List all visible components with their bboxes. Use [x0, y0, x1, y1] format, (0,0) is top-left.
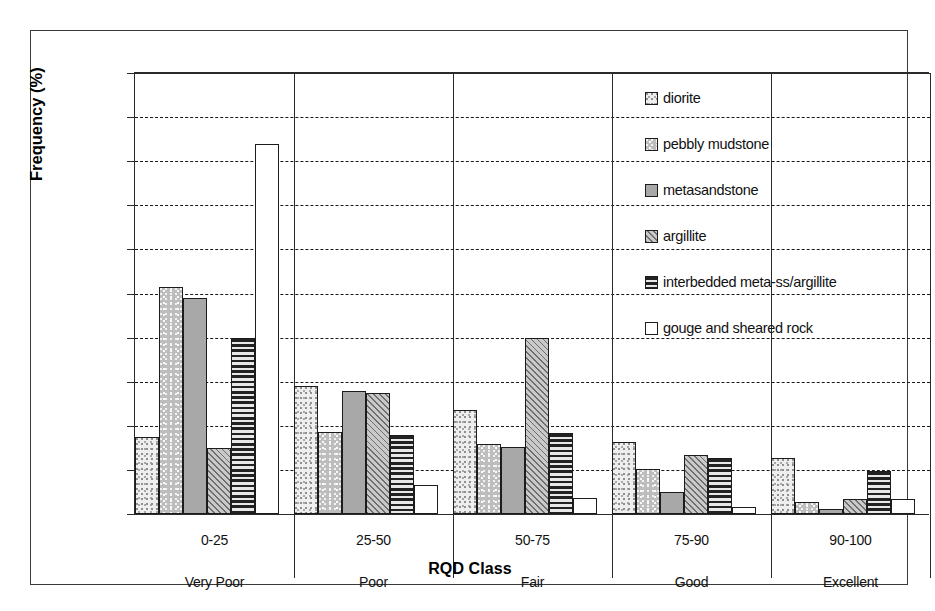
legend-item-label: diorite	[663, 90, 700, 106]
bar[interactable]	[135, 437, 159, 514]
bar[interactable]	[453, 410, 477, 514]
legend-item-label: argillite	[663, 228, 706, 244]
bar[interactable]	[612, 442, 636, 514]
bar[interactable]	[159, 287, 183, 514]
bar[interactable]	[549, 433, 573, 514]
bar-group	[135, 73, 279, 514]
bar[interactable]	[732, 507, 756, 514]
x-category-range: 50-75	[453, 532, 612, 548]
bar[interactable]	[636, 469, 660, 514]
legend-item[interactable]: pebbly mudstone	[645, 121, 935, 167]
legend-item[interactable]: gouge and sheared rock	[645, 305, 935, 351]
bar[interactable]	[366, 393, 390, 514]
y-axis-title: Frequency (%)	[27, 67, 46, 181]
bar[interactable]	[819, 509, 843, 514]
legend-swatch-icon	[645, 184, 658, 197]
legend-item-label: interbedded meta-ss/argillite	[663, 274, 836, 290]
legend-item-label: gouge and sheared rock	[663, 320, 813, 336]
bar[interactable]	[684, 455, 708, 514]
figure-frame: 01020304050607080901000-25Very Poor25-50…	[30, 30, 908, 585]
bar[interactable]	[255, 144, 279, 514]
bar[interactable]	[708, 458, 732, 514]
x-category-range: 0-25	[135, 532, 294, 548]
legend-item[interactable]: argillite	[645, 213, 935, 259]
x-axis-title: RQD Class	[31, 560, 909, 578]
bar[interactable]	[501, 447, 525, 514]
bar[interactable]	[390, 435, 414, 514]
bar[interactable]	[525, 338, 549, 514]
bar[interactable]	[660, 492, 684, 514]
legend-swatch-icon	[645, 276, 658, 289]
bar[interactable]	[342, 391, 366, 514]
legend-swatch-icon	[645, 138, 658, 151]
bar[interactable]	[231, 338, 255, 514]
bar[interactable]	[771, 458, 795, 514]
x-category-range: 75-90	[612, 532, 771, 548]
bar[interactable]	[891, 499, 915, 514]
bar[interactable]	[318, 432, 342, 514]
bar[interactable]	[795, 502, 819, 514]
legend-item-label: metasandstone	[663, 182, 758, 198]
x-category-range: 25-50	[294, 532, 453, 548]
legend-swatch-icon	[645, 92, 658, 105]
bar-group	[453, 73, 597, 514]
bar[interactable]	[867, 471, 891, 514]
x-category-range: 90-100	[771, 532, 930, 548]
legend-item-label: pebbly mudstone	[663, 136, 769, 152]
legend-swatch-icon	[645, 230, 658, 243]
bar[interactable]	[414, 485, 438, 514]
chart-legend: dioritepebbly mudstonemetasandstoneargil…	[645, 75, 935, 351]
legend-item[interactable]: metasandstone	[645, 167, 935, 213]
y-tick-mark	[127, 514, 135, 515]
legend-swatch-icon	[645, 322, 658, 335]
legend-item[interactable]: interbedded meta-ss/argillite	[645, 259, 935, 305]
bar[interactable]	[843, 499, 867, 514]
bar[interactable]	[477, 444, 501, 514]
bar[interactable]	[183, 298, 207, 514]
legend-item[interactable]: diorite	[645, 75, 935, 121]
bar-group	[294, 73, 438, 514]
bar[interactable]	[573, 498, 597, 514]
bar[interactable]	[294, 386, 318, 514]
bar[interactable]	[207, 448, 231, 514]
